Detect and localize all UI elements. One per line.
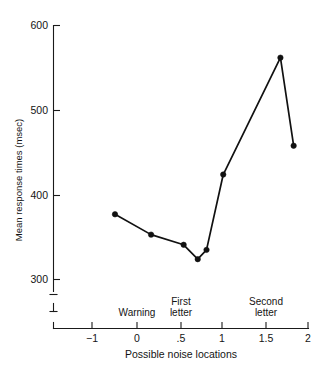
x-tick-label-1: 1 bbox=[219, 332, 225, 344]
y-axis-title: Mean response times (msec) bbox=[13, 119, 24, 241]
x-tick-label-0: 0 bbox=[134, 332, 140, 344]
data-series bbox=[112, 55, 296, 262]
annotation-second-letter-line1: Second bbox=[249, 296, 283, 307]
data-point bbox=[204, 247, 209, 252]
data-point bbox=[181, 242, 186, 247]
y-tick-label-600: 600 bbox=[30, 19, 48, 31]
plot-annotations: Warning First letter Second letter bbox=[119, 296, 283, 318]
data-point bbox=[278, 55, 283, 60]
annotation-warning: Warning bbox=[119, 307, 156, 318]
series-markers bbox=[112, 55, 296, 262]
x-tick-label-1-5: 1.5 bbox=[259, 332, 274, 344]
figure-container: 600 500 400 300 Mean response times (mse… bbox=[0, 0, 324, 367]
y-tick-label-400: 400 bbox=[30, 189, 48, 201]
x-tick-label-2: 2 bbox=[305, 332, 311, 344]
series-line bbox=[115, 58, 294, 260]
y-tick-label-300: 300 bbox=[30, 273, 48, 285]
data-point bbox=[291, 143, 296, 148]
line-chart: 600 500 400 300 Mean response times (mse… bbox=[0, 0, 324, 367]
x-tick-label-neg1: −1 bbox=[86, 332, 98, 344]
y-tick-label-500: 500 bbox=[30, 104, 48, 116]
x-axis: −1 0 .5 1 1.5 2 Possible noise locations bbox=[54, 322, 312, 360]
data-point bbox=[221, 172, 226, 177]
data-point bbox=[112, 212, 117, 217]
annotation-second-letter-line2: letter bbox=[255, 307, 278, 318]
x-axis-title: Possible noise locations bbox=[125, 348, 237, 360]
data-point bbox=[195, 256, 200, 261]
y-axis: 600 500 400 300 Mean response times (mse… bbox=[13, 19, 60, 312]
annotation-first-letter-line1: First bbox=[171, 296, 191, 307]
data-point bbox=[148, 232, 153, 237]
cropped-header-text bbox=[110, 0, 324, 4]
annotation-first-letter-line2: letter bbox=[170, 307, 193, 318]
x-tick-label-0-5: .5 bbox=[177, 332, 186, 344]
